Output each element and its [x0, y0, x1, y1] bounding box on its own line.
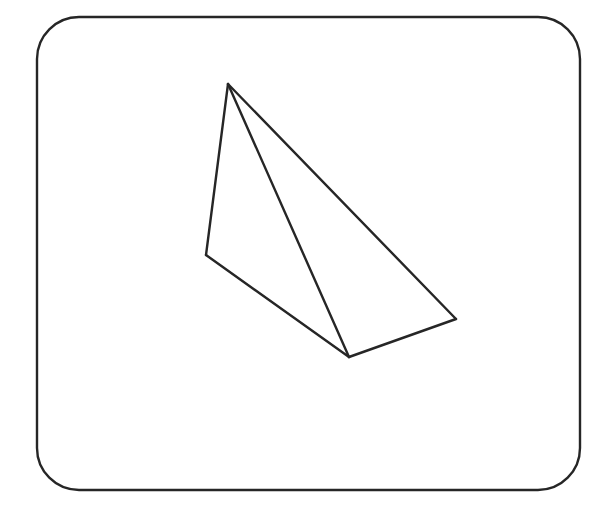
edge-apex-left	[206, 84, 228, 255]
drawing-canvas	[0, 0, 609, 525]
rounded-frame	[37, 17, 580, 490]
edge-right-apex	[228, 84, 456, 319]
edge-bottom-right	[349, 319, 456, 357]
pyramid-shape	[206, 84, 456, 357]
edge-apex-bottom	[228, 84, 349, 357]
